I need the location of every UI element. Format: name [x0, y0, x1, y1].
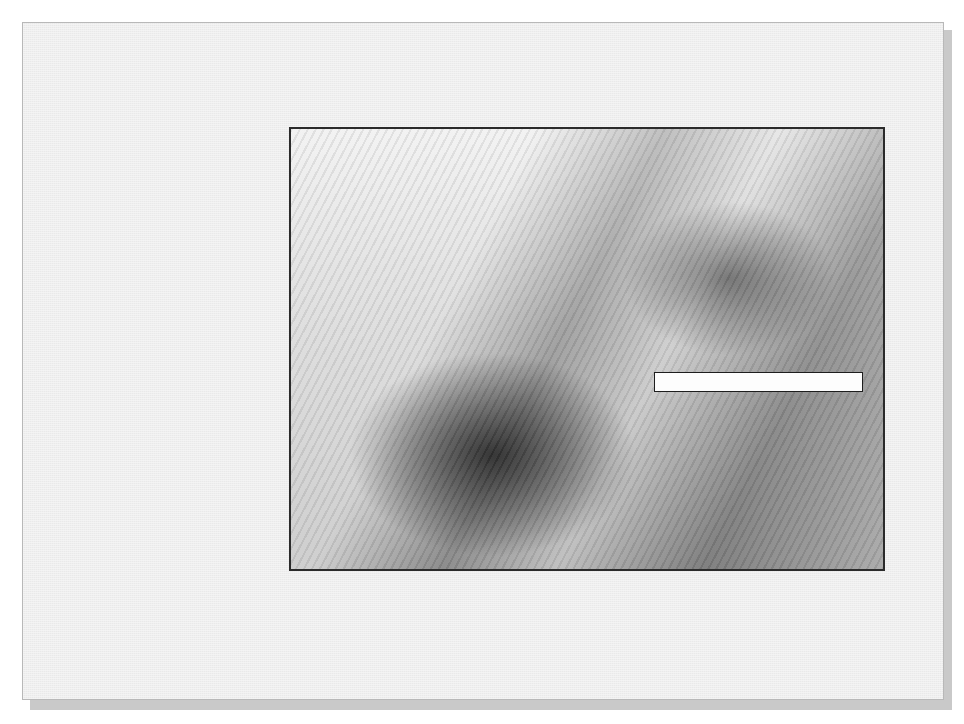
plot-wrapper [289, 127, 883, 569]
page-canvas [0, 0, 964, 724]
bar-series-container [291, 129, 883, 569]
plot-area [289, 127, 885, 571]
legend[interactable] [654, 372, 863, 392]
chart-paper [22, 22, 944, 700]
